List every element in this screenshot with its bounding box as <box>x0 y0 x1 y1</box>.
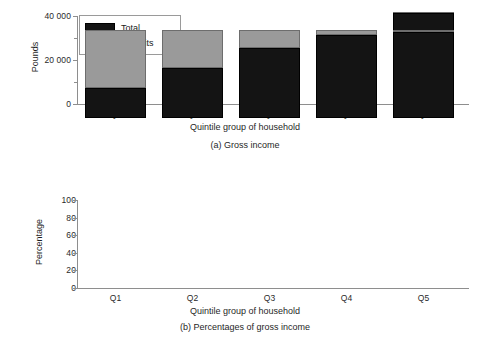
y-tick-label: 0 <box>66 99 71 109</box>
bar-q2[interactable] <box>162 30 224 118</box>
bar-group-b <box>77 30 462 118</box>
x-tick-label-q1: Q1 <box>110 293 121 303</box>
bar-segment-total <box>393 32 455 118</box>
y-tick-mark <box>73 235 77 236</box>
y-tick-label: 40 000 <box>44 11 71 21</box>
figure-gross-income: Pounds 020 00040 000 Q1Q2Q3Q4Q5 Quintile… <box>0 0 490 337</box>
bar-segment-total <box>162 68 224 118</box>
y-axis-labels-b: 020406080100 <box>40 200 76 288</box>
y-tick-label: 20 000 <box>44 55 71 65</box>
bar-stack <box>162 30 224 118</box>
x-tick-label-q2: Q2 <box>187 293 198 303</box>
bar-q5[interactable] <box>393 30 455 118</box>
x-axis-title-b: Quintile group of household <box>0 306 490 316</box>
y-axis-line-b <box>77 200 78 288</box>
bar-segment-benefits <box>239 30 301 48</box>
bar-segment-benefits <box>85 30 147 88</box>
bar-q4[interactable] <box>316 30 378 118</box>
y-tick-mark <box>73 253 77 254</box>
y-tick-mark <box>73 270 77 271</box>
bar-q1[interactable] <box>85 30 147 118</box>
bar-segment-total <box>85 88 147 118</box>
bar-segment-total <box>239 48 301 118</box>
y-tick-mark <box>73 200 77 201</box>
bar-stack <box>239 30 301 118</box>
bar-segment-total <box>316 35 378 118</box>
x-tick-label-q5: Q5 <box>418 293 429 303</box>
caption-a: (a) Gross income <box>0 140 490 150</box>
bar-stack <box>316 30 378 118</box>
bar-segment-benefits <box>162 30 224 68</box>
bar-stack <box>393 30 455 118</box>
bar-stack <box>85 30 147 118</box>
y-tick-mark <box>73 218 77 219</box>
y-axis-labels-a: 020 00040 000 <box>35 16 71 104</box>
caption-b: (b) Percentages of gross income <box>0 322 490 332</box>
x-axis-title-a: Quintile group of household <box>0 122 490 132</box>
plot-area-b <box>77 30 462 118</box>
bar-q3[interactable] <box>239 30 301 118</box>
x-tick-label-q3: Q3 <box>264 293 275 303</box>
x-axis-line-b <box>77 288 469 289</box>
x-tick-label-q4: Q4 <box>341 293 352 303</box>
